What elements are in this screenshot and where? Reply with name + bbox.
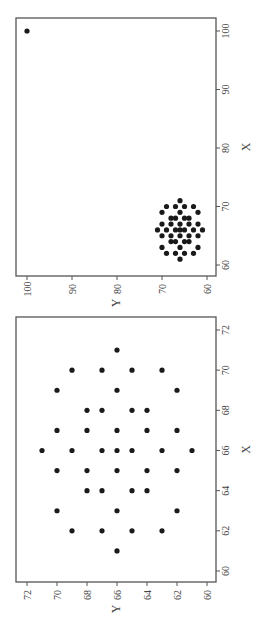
- data-point: [159, 221, 164, 226]
- data-point: [186, 239, 191, 244]
- data-point: [186, 216, 191, 221]
- data-point: [144, 408, 149, 413]
- data-point: [168, 239, 173, 244]
- data-point: [195, 221, 200, 226]
- scatter-panel-with-outlier: 6070809010060708090100XY: [16, 18, 253, 307]
- x-axis-title: X: [239, 445, 253, 454]
- x-tick-label: 68: [220, 405, 231, 415]
- data-point: [129, 448, 134, 453]
- data-point: [173, 216, 178, 221]
- x-axis-title: X: [239, 142, 253, 151]
- x-tick-label: 70: [220, 365, 231, 375]
- data-point: [177, 221, 182, 226]
- data-point: [191, 204, 196, 209]
- data-point: [182, 251, 187, 256]
- data-point: [99, 528, 104, 533]
- data-point: [144, 488, 149, 493]
- y-tick-label: 70: [52, 590, 63, 600]
- data-point: [69, 368, 74, 373]
- data-point: [164, 204, 169, 209]
- data-point: [168, 233, 173, 238]
- data-point: [99, 448, 104, 453]
- data-point: [114, 448, 119, 453]
- x-tick-label: 90: [220, 85, 231, 95]
- y-tick-label: 100: [22, 282, 33, 297]
- data-point: [24, 28, 29, 33]
- data-point: [54, 388, 59, 393]
- data-point: [114, 347, 119, 352]
- data-point: [173, 204, 178, 209]
- x-tick-label: 72: [220, 325, 231, 335]
- data-point: [177, 257, 182, 262]
- x-tick-label: 64: [220, 486, 231, 496]
- data-point: [114, 428, 119, 433]
- data-point: [159, 233, 164, 238]
- data-point: [174, 508, 179, 513]
- data-point: [186, 221, 191, 226]
- data-point: [144, 428, 149, 433]
- data-point: [54, 428, 59, 433]
- data-point: [182, 204, 187, 209]
- data-point: [84, 488, 89, 493]
- data-point: [182, 227, 187, 232]
- data-point: [129, 528, 134, 533]
- data-point: [173, 239, 178, 244]
- data-point: [173, 227, 178, 232]
- scatter-figure: 6070809010060708090100XY 606264666870726…: [0, 0, 263, 627]
- data-point: [191, 251, 196, 256]
- data-point: [191, 227, 196, 232]
- data-point: [54, 468, 59, 473]
- y-tick-label: 70: [157, 284, 168, 294]
- data-point: [159, 245, 164, 250]
- data-point: [99, 368, 104, 373]
- data-point: [159, 528, 164, 533]
- data-point: [69, 528, 74, 533]
- y-tick-label: 60: [202, 590, 213, 600]
- data-point: [189, 448, 194, 453]
- data-point: [159, 368, 164, 373]
- data-point: [114, 508, 119, 513]
- y-tick-label: 64: [142, 590, 153, 600]
- data-point: [174, 388, 179, 393]
- data-point: [114, 468, 119, 473]
- data-point: [54, 508, 59, 513]
- data-point: [186, 233, 191, 238]
- data-point: [129, 408, 134, 413]
- data-point: [168, 221, 173, 226]
- data-point: [84, 428, 89, 433]
- x-tick-label: 80: [220, 143, 231, 153]
- data-point: [177, 233, 182, 238]
- data-point: [155, 227, 160, 232]
- x-tick-label: 66: [220, 446, 231, 456]
- data-point: [177, 227, 182, 232]
- data-point: [144, 468, 149, 473]
- data-point: [177, 210, 182, 215]
- data-point: [164, 251, 169, 256]
- y-axis-title: Y: [109, 298, 123, 307]
- data-point: [99, 488, 104, 493]
- data-point: [84, 468, 89, 473]
- data-point: [168, 216, 173, 221]
- y-tick-label: 66: [112, 590, 123, 600]
- data-point: [129, 488, 134, 493]
- data-point: [173, 251, 178, 256]
- data-point: [174, 468, 179, 473]
- data-point: [195, 245, 200, 250]
- scatter-panel-zoomed: 6062646668707260626466687072XY: [16, 317, 253, 613]
- x-tick-label: 100: [220, 24, 231, 39]
- y-axis-title: Y: [109, 604, 123, 613]
- data-point: [182, 216, 187, 221]
- data-point: [84, 408, 89, 413]
- y-tick-label: 80: [112, 284, 123, 294]
- data-point: [195, 233, 200, 238]
- figure: 6070809010060708090100XY 606264666870726…: [0, 0, 263, 627]
- y-tick-label: 60: [202, 284, 213, 294]
- x-tick-label: 60: [220, 566, 231, 576]
- data-point: [39, 448, 44, 453]
- data-point: [177, 198, 182, 203]
- data-point: [159, 448, 164, 453]
- data-point: [182, 239, 187, 244]
- data-point: [195, 210, 200, 215]
- x-tick-label: 62: [220, 526, 231, 536]
- data-point: [177, 245, 182, 250]
